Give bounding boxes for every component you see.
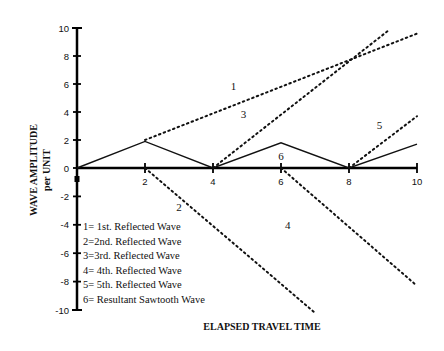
x-tick-label: 10 xyxy=(412,176,423,187)
series-line-3 xyxy=(213,29,390,168)
legend-item: 5= 5th. Reflected Wave xyxy=(83,279,182,290)
x-tick-label: 2 xyxy=(142,176,147,187)
x-tick-label: 4 xyxy=(210,176,215,187)
series-label-4: 4 xyxy=(285,219,291,231)
y-tick-label: 0 xyxy=(64,163,69,174)
y-axis-title-line1: WAVE AMPLITUDE xyxy=(28,124,39,216)
x-tick-label: 8 xyxy=(346,176,351,187)
y-tick-label: 4 xyxy=(64,107,69,118)
legend: 1= 1st. Reflected Wave2=2nd. Reflected W… xyxy=(83,221,205,305)
y-tick-label: -8 xyxy=(61,276,69,287)
series-label-3: 3 xyxy=(241,108,247,120)
x-axis-title: ELAPSED TRAVEL TIME xyxy=(203,321,321,332)
series-label-1: 1 xyxy=(231,80,237,92)
y-tick-label: 2 xyxy=(64,135,69,146)
legend-item: 6= Resultant Sawtooth Wave xyxy=(83,294,205,305)
y-tick-label: 6 xyxy=(64,79,69,90)
y-tick-label: -2 xyxy=(61,191,69,202)
y-axis-title: WAVE AMPLITUDE per UNIT xyxy=(28,124,52,216)
y-tick-label: 10 xyxy=(58,23,69,34)
series-label-2: 2 xyxy=(176,201,182,213)
x-tick-label: 6 xyxy=(278,176,283,187)
y-tick-label: -10 xyxy=(55,305,69,316)
y-tick-label: -6 xyxy=(61,248,69,259)
y-axis-title-line2: per UNIT xyxy=(41,149,52,191)
y-tick-label: -4 xyxy=(61,219,69,230)
series-line-5 xyxy=(349,116,417,168)
legend-item: 3=3rd. Reflected Wave xyxy=(83,250,180,261)
legend-item: 2=2nd. Reflected Wave xyxy=(83,236,182,247)
legend-item: 1= 1st. Reflected Wave xyxy=(83,221,181,232)
series-label-5: 5 xyxy=(377,119,383,131)
series-labels: 123456 xyxy=(176,80,383,231)
y-tick-label: 8 xyxy=(64,51,69,62)
wave-chart: 1086420-2-4-6-8-10246810 123456 1= 1st. … xyxy=(0,0,444,351)
legend-item: 4= 4th. Reflected Wave xyxy=(83,265,182,276)
series-label-6: 6 xyxy=(278,150,284,162)
